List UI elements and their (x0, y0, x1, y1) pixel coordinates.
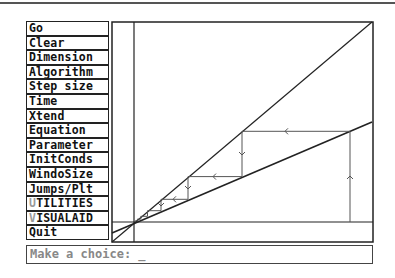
menu-item-label: Jumps/Plt (29, 182, 93, 196)
menu-item-label: Step size (29, 79, 93, 93)
menu-item-utilities[interactable]: UTILITIES (26, 196, 109, 211)
menu-item-label: Go (29, 21, 43, 35)
menu-item-windosize[interactable]: WindoSize (26, 167, 109, 182)
menu-item-label: Quit (29, 225, 58, 239)
menu-item-label: Time (29, 94, 58, 108)
menu-item-label: Clear (29, 36, 65, 50)
menu-item-go[interactable]: Go (26, 21, 109, 36)
menu-item-jumps-plt[interactable]: Jumps/Plt (26, 182, 109, 197)
menu-item-dimension[interactable]: Dimension (26, 50, 109, 65)
menu-item-time[interactable]: Time (26, 94, 109, 109)
menu-item-initconds[interactable]: InitConds (26, 152, 109, 167)
menu-item-clear[interactable]: Clear (26, 36, 109, 51)
top-rule (0, 2, 395, 4)
menu-item-quit[interactable]: Quit (26, 225, 109, 240)
menu-item-label: InitConds (29, 152, 93, 166)
menu-item-algorithm[interactable]: Algorithm (26, 65, 109, 80)
menu-item-xtend[interactable]: Xtend (26, 109, 109, 124)
menu-item-equation[interactable]: Equation (26, 123, 109, 138)
menu-item-label: Algorithm (29, 65, 93, 79)
cobweb-plot (111, 21, 374, 244)
menu-item-label: ISUALAID (36, 211, 93, 225)
main-menu: GoClearDimensionAlgorithmStep sizeTimeXt… (26, 21, 109, 240)
menu-item-label: Parameter (29, 138, 93, 152)
menu-item-visualaid[interactable]: VISUALAID (26, 211, 109, 226)
command-prompt[interactable]: Make a choice: _ (26, 245, 373, 264)
menu-item-step-size[interactable]: Step size (26, 79, 109, 94)
menu-item-parameter[interactable]: Parameter (26, 138, 109, 153)
menu-item-label: Equation (29, 123, 86, 137)
menu-item-label: Dimension (29, 50, 93, 64)
menu-item-label: Xtend (29, 109, 65, 123)
menu-item-label: TILITIES (36, 196, 93, 210)
menu-item-label: WindoSize (29, 167, 93, 181)
